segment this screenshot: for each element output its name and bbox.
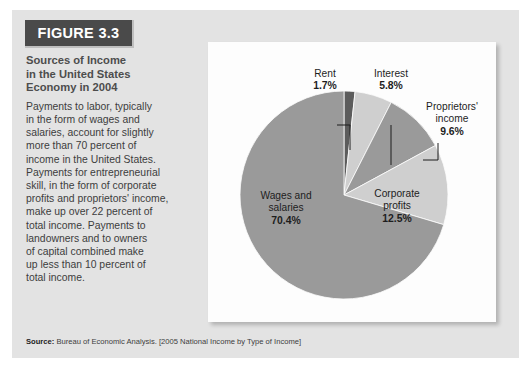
figure-container: FIGURE 3.3 Sources of Income in the Unit… — [0, 0, 531, 382]
wages-label-line1: Wages and — [260, 190, 311, 201]
source-note: Source: Bureau of Economic Analysis. [20… — [26, 337, 301, 346]
pie-chart: Rent 1.7% Interest 5.8% Proprietors' inc… — [208, 42, 496, 322]
proprietors-value: 9.6% — [440, 126, 464, 137]
interest-value: 5.8% — [379, 80, 403, 91]
corporate-profits-label-line1: Corporate — [374, 188, 420, 199]
proprietors-label-line2: income — [436, 113, 469, 124]
interest-label: Interest — [374, 68, 408, 79]
proprietors-label-line1: Proprietors' — [426, 101, 478, 112]
figure-text-column: Sources of Income in the United States E… — [26, 54, 194, 285]
source-label: Source: — [26, 337, 54, 346]
figure-title: Sources of Income in the United States E… — [26, 54, 194, 95]
wages-value: 70.4% — [271, 215, 300, 226]
source-text: Bureau of Economic Analysis. [2005 Natio… — [54, 337, 301, 346]
pie-chart-card: Rent 1.7% Interest 5.8% Proprietors' inc… — [208, 42, 496, 322]
corporate-profits-value: 12.5% — [382, 213, 411, 224]
figure-description: Payments to labor, typically in the form… — [26, 100, 194, 285]
rent-value: 1.7% — [313, 80, 337, 91]
rent-label: Rent — [314, 68, 336, 79]
figure-number-banner: FIGURE 3.3 — [25, 20, 134, 48]
corporate-profits-label-line2: profits — [383, 200, 411, 211]
figure-number-label: FIGURE 3.3 — [38, 25, 120, 41]
wages-label-line2: salaries — [268, 202, 303, 213]
